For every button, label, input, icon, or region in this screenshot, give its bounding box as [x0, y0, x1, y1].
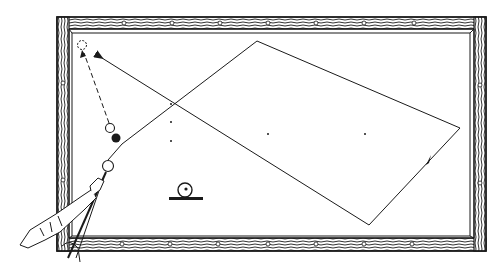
billiards-diagram [0, 0, 504, 272]
object-ball [106, 124, 115, 133]
table-frame [57, 17, 486, 251]
diamond-marker [168, 242, 172, 246]
black-ball [112, 134, 121, 143]
right-rail [474, 17, 486, 251]
diamond-marker [266, 21, 270, 25]
spot-dot [267, 133, 269, 135]
diamond-marker [478, 181, 482, 185]
diamond-marker [362, 21, 366, 25]
table-cloth [72, 33, 470, 236]
cue-ball [103, 161, 114, 172]
diamond-marker [362, 242, 366, 246]
diamond-marker [410, 242, 414, 246]
diamond-marker [314, 242, 318, 246]
diamond-marker [478, 83, 482, 87]
diamond-marker [61, 178, 65, 182]
spot-dot [170, 103, 172, 105]
ghost-ball [78, 41, 87, 50]
diamond-marker [120, 242, 124, 246]
diamond-marker [314, 21, 318, 25]
diamond-marker [266, 242, 270, 246]
diamond-marker [61, 81, 65, 85]
top-rail [57, 17, 486, 29]
diamond-marker [170, 21, 174, 25]
spot-dot [170, 140, 172, 142]
diamond-marker [412, 21, 416, 25]
spot-dot [364, 133, 366, 135]
spot-dot [170, 121, 172, 123]
diamond-marker [218, 21, 222, 25]
diamond-marker [216, 242, 220, 246]
diamond-marker [122, 21, 126, 25]
